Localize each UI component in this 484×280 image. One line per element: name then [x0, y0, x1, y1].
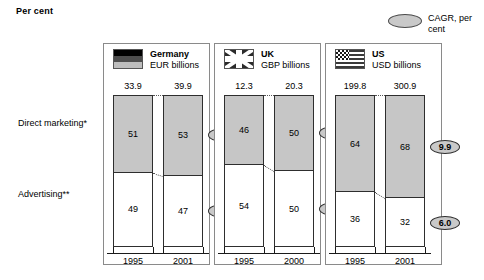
- panel-header-uk: UK GBP billions: [224, 49, 310, 71]
- country-name-us: US: [372, 49, 421, 60]
- stacked-bar-us-1995[interactable]: 6436: [335, 95, 375, 247]
- us-flag-icon: [335, 49, 365, 69]
- axis-baseline: [107, 253, 209, 254]
- panel-uk: UK GBP billions 12.34654199520.350502000…: [214, 43, 321, 265]
- plot-area-us: 199.864361995300.9683220019.96.0: [326, 81, 441, 264]
- segment-advertising-uk-1995[interactable]: 54: [225, 165, 263, 246]
- segment-advertising-us-2001[interactable]: 32: [386, 198, 424, 246]
- cagr-ellipse-swatch-icon: [388, 14, 422, 28]
- segment-advertising-uk-2000[interactable]: 50: [275, 171, 313, 246]
- segment-direct-marketing-germany-1995[interactable]: 51: [114, 96, 152, 173]
- year-label-us-1995: 1995: [335, 256, 375, 266]
- cagr-legend-line-2: cent: [428, 24, 484, 35]
- panel-germany: Germany EUR billions 33.95149199539.9534…: [103, 43, 210, 265]
- connector-split: [375, 192, 386, 199]
- connector-split: [264, 165, 275, 172]
- uk-flag-icon: [224, 49, 254, 69]
- plot-area-germany: 33.95149199539.9534720015.52.8: [104, 81, 209, 264]
- connector-top: [375, 95, 385, 96]
- year-label-uk-1995: 1995: [224, 256, 264, 266]
- segment-direct-marketing-us-1995[interactable]: 64: [336, 96, 374, 192]
- segment-direct-marketing-us-2001[interactable]: 68: [386, 96, 424, 198]
- segment-direct-marketing-uk-1995[interactable]: 46: [225, 96, 263, 165]
- currency-unit-us: USD billions: [372, 60, 421, 71]
- cagr-legend-text: CAGR, per cent: [428, 13, 484, 35]
- connector-top: [153, 95, 163, 96]
- axis-baseline: [218, 253, 320, 254]
- segment-advertising-germany-2001[interactable]: 47: [164, 176, 202, 247]
- year-label-germany-2001: 2001: [163, 256, 203, 266]
- year-label-uk-2000: 2000: [274, 256, 314, 266]
- total-label-us-1995: 199.8: [335, 81, 375, 91]
- currency-unit-uk: GBP billions: [261, 60, 310, 71]
- country-name-uk: UK: [261, 49, 310, 60]
- germany-flag-icon: [113, 49, 143, 69]
- stacked-bar-germany-1995[interactable]: 5149: [113, 95, 153, 247]
- panel-titles-us: US USD billions: [372, 49, 421, 71]
- currency-unit-germany: EUR billions: [150, 60, 199, 71]
- year-label-us-2001: 2001: [385, 256, 425, 266]
- total-label-germany-2001: 39.9: [163, 81, 203, 91]
- total-label-uk-1995: 12.3: [224, 81, 264, 91]
- stacked-bar-germany-2001[interactable]: 5347: [163, 95, 203, 247]
- stacked-bar-us-2001[interactable]: 6832: [385, 95, 425, 247]
- cagr-bubble-advertising-us[interactable]: 6.0: [430, 216, 460, 230]
- connector-top: [264, 95, 274, 96]
- country-name-germany: Germany: [150, 49, 199, 60]
- row-label-advertising: Advertising**: [18, 189, 70, 199]
- year-label-germany-1995: 1995: [113, 256, 153, 266]
- cagr-bubble-direct-marketing-us[interactable]: 9.9: [430, 140, 460, 154]
- chart-unit-title: Per cent: [16, 6, 53, 16]
- panel-header-us: US USD billions: [335, 49, 421, 71]
- axis-baseline: [329, 253, 431, 254]
- cagr-legend: CAGR, per cent: [388, 13, 484, 35]
- segment-advertising-germany-1995[interactable]: 49: [114, 173, 152, 247]
- total-label-us-2001: 300.9: [385, 81, 425, 91]
- segment-direct-marketing-uk-2000[interactable]: 50: [275, 96, 313, 171]
- stacked-bar-uk-2000[interactable]: 5050: [274, 95, 314, 247]
- cagr-legend-line-1: CAGR, per: [428, 13, 484, 24]
- segment-direct-marketing-germany-2001[interactable]: 53: [164, 96, 202, 176]
- connector-split: [153, 173, 163, 177]
- row-label-direct-marketing: Direct marketing*: [18, 118, 87, 128]
- segment-advertising-us-1995[interactable]: 36: [336, 192, 374, 246]
- plot-area-uk: 12.34654199520.35050200012.48.9: [215, 81, 320, 264]
- panel-titles-uk: UK GBP billions: [261, 49, 310, 71]
- panel-us: US USD billions 199.864361995300.9683220…: [325, 43, 442, 265]
- total-label-uk-2000: 20.3: [274, 81, 314, 91]
- panel-header-germany: Germany EUR billions: [113, 49, 199, 71]
- total-label-germany-1995: 33.9: [113, 81, 153, 91]
- panel-titles-germany: Germany EUR billions: [150, 49, 199, 71]
- stacked-bar-uk-1995[interactable]: 4654: [224, 95, 264, 247]
